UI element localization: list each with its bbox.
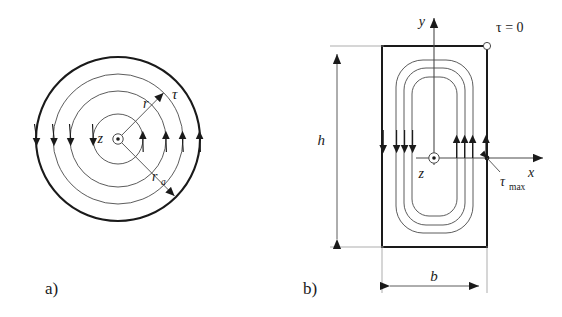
label-tau-zero: τ = 0 [496, 20, 524, 35]
tau-max-leader-line [487, 158, 500, 172]
radius-line-r [118, 93, 164, 139]
tau-zero-marker-group [483, 42, 490, 49]
z-axis-marker-a [113, 134, 123, 144]
label-z-b: z [418, 166, 425, 181]
z-marker-dot [432, 156, 436, 160]
label-ra-subscript: a [161, 177, 166, 187]
stress-arrow-down-4 [93, 124, 94, 138]
label-tau-max-subscript: max [509, 182, 526, 192]
label-r: r [143, 96, 149, 111]
z-axis-marker-b [429, 153, 439, 163]
z-marker-dot [116, 137, 120, 141]
label-ra-group: r a [152, 169, 166, 187]
panel-b-group: y x z h b τ = 0 τ max b) [303, 14, 543, 298]
panel-a-stress-arrows-right [143, 139, 201, 152]
figure-root: z r r a τ a) [0, 0, 562, 317]
label-h: h [318, 132, 326, 148]
caption-b: b) [303, 279, 317, 298]
panel-b-stress-arrows-left [383, 130, 412, 145]
stress-arrow-up-2 [166, 139, 167, 152]
technical-figure-svg: z r r a τ a) [0, 0, 562, 317]
label-y-axis: y [417, 14, 426, 29]
label-b: b [430, 268, 438, 284]
label-tau-a: τ [172, 86, 178, 102]
panel-a-stress-arrows-left [35, 124, 94, 138]
label-tau-max-group: τ max [500, 174, 526, 192]
stress-arrow-up-3 [183, 139, 184, 152]
label-tau-max: τ [500, 174, 506, 189]
caption-a: a) [45, 279, 58, 298]
label-ra: r [152, 169, 158, 184]
stress-arrow-up-4 [200, 139, 201, 152]
h-dimension-group [330, 46, 384, 247]
label-z-a: z [97, 131, 104, 146]
panel-a-group: z r r a τ a) [35, 57, 201, 298]
tau-zero-marker [483, 42, 490, 49]
panel-b-stress-arrows-right [457, 143, 486, 158]
label-x-axis: x [527, 165, 535, 180]
